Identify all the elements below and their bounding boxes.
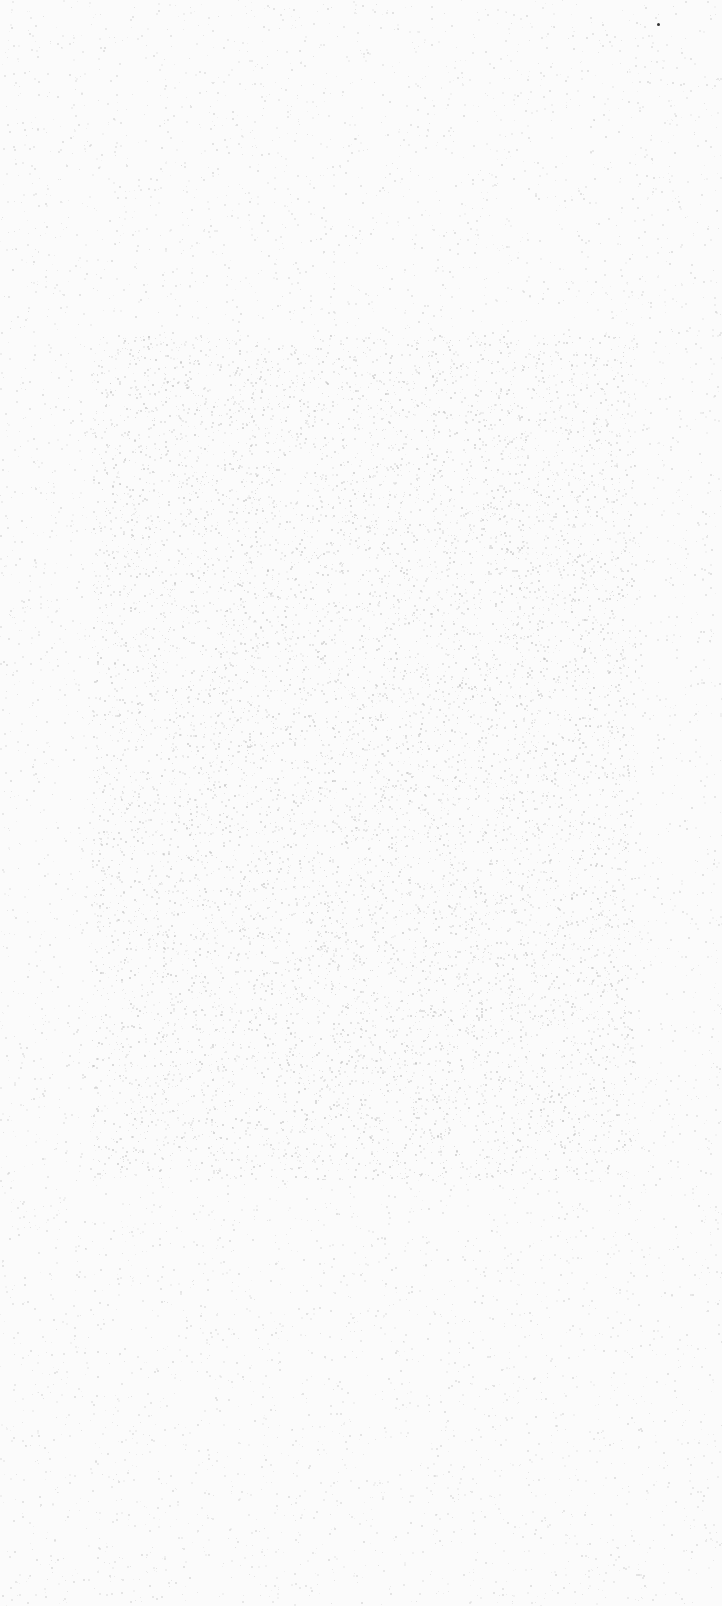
textured-panel <box>92 335 636 1180</box>
panel-texture <box>92 335 636 1180</box>
dark-speck <box>657 23 660 26</box>
